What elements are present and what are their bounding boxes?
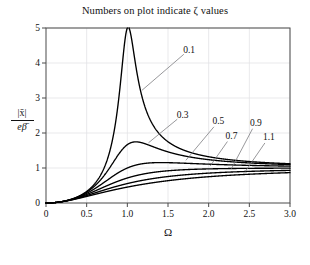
frequency-response-figure: Numbers on plot indicate ζ values |x̄| e… xyxy=(0,0,310,265)
curve-label-zeta-0-7: 0.7 xyxy=(226,131,238,141)
leader-layer xyxy=(142,54,265,171)
y-tick-label: 1 xyxy=(22,163,40,173)
x-tick-label: 1.5 xyxy=(162,209,174,219)
leader-line-zeta-0-7 xyxy=(210,142,227,166)
x-tick-label: 1.0 xyxy=(121,209,133,219)
x-axis-label: Ω xyxy=(46,226,290,238)
curve-label-zeta-0-9: 0.9 xyxy=(250,118,262,128)
x-tick-label: 0 xyxy=(44,209,49,219)
y-tick-label: 2 xyxy=(22,128,40,138)
x-tick-label: 3.0 xyxy=(284,209,296,219)
curve-label-zeta-0-5: 0.5 xyxy=(212,116,224,126)
y-tick-label: 3 xyxy=(22,93,40,103)
x-tick-label: 0.5 xyxy=(81,209,93,219)
y-tick-label: 0 xyxy=(22,198,40,208)
x-tick-label: 2.5 xyxy=(243,209,255,219)
curve-label-zeta-0-1: 0.1 xyxy=(183,45,195,55)
y-tick-label: 4 xyxy=(22,58,40,68)
chart-title: Numbers on plot indicate ζ values xyxy=(0,5,310,16)
curve-label-zeta-0-3: 0.3 xyxy=(177,110,189,120)
leader-line-zeta-0-1 xyxy=(142,54,184,90)
leader-line-zeta-0-3 xyxy=(148,119,177,143)
x-tick-label: 2.0 xyxy=(203,209,215,219)
leader-line-zeta-1-1 xyxy=(245,143,265,172)
y-tick-label: 5 xyxy=(22,23,40,33)
curve-label-zeta-1-1: 1.1 xyxy=(263,132,275,142)
y-axis-label-numerator: |x̄| xyxy=(11,108,34,121)
